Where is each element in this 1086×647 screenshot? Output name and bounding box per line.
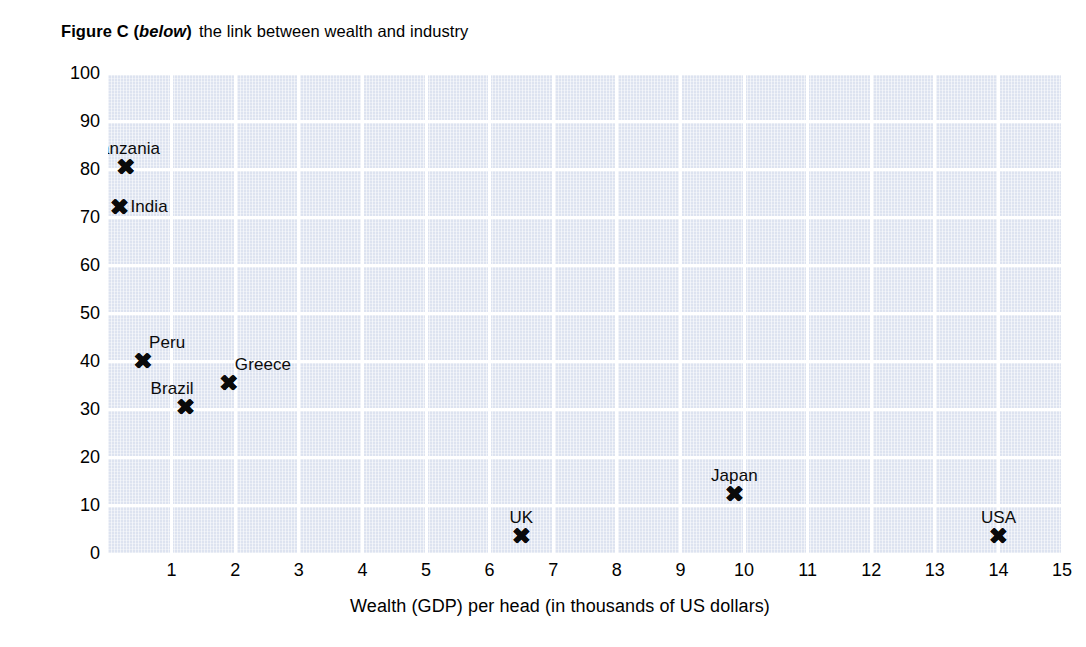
gridline-horizontal: [108, 264, 1062, 267]
gridline-horizontal: [108, 456, 1062, 459]
x-cross-icon: ✖: [512, 525, 531, 548]
y-axis-tick-label: 10: [10, 496, 100, 514]
title-emphasis: below: [139, 22, 186, 40]
page-title: Figure C (below)the link between wealth …: [61, 22, 468, 41]
x-axis-ticks: 123456789101112131415: [0, 561, 1086, 587]
data-point-label: Brazil: [151, 380, 194, 397]
y-axis-tick-label: 50: [10, 304, 100, 322]
x-axis-tick-label: 6: [470, 561, 510, 579]
gridline-horizontal: [108, 408, 1062, 411]
gridline-horizontal: [108, 168, 1062, 171]
title-prefix: Figure C (: [61, 22, 139, 40]
gridlines: [108, 73, 1062, 553]
x-axis-tick-label: 8: [597, 561, 637, 579]
y-axis-tick-label: 70: [10, 208, 100, 226]
x-cross-icon: ✖: [116, 155, 135, 178]
data-point-label: UK: [509, 509, 533, 526]
x-cross-icon: ✖: [725, 482, 744, 505]
data-point-label: Peru: [149, 334, 185, 351]
x-axis-tick-label: 10: [724, 561, 764, 579]
data-point-label: Tanzania: [108, 140, 160, 157]
y-axis-tick-label: 100: [10, 64, 100, 82]
data-point-label: India: [130, 198, 167, 215]
gridline-horizontal: [108, 73, 1062, 75]
scatter-plot-area: ✖Tanzania✖India✖Peru✖Greece✖Brazil✖Japan…: [108, 73, 1062, 553]
gridline-horizontal: [108, 504, 1062, 507]
x-axis-tick-label: 15: [1042, 561, 1082, 579]
x-cross-icon: ✖: [133, 350, 152, 373]
gridline-horizontal: [108, 120, 1062, 123]
x-cross-icon: ✖: [219, 371, 238, 394]
y-axis-tick-label: 0: [10, 544, 100, 562]
y-axis-tick-label: 60: [10, 256, 100, 274]
y-axis-tick-label: 80: [10, 160, 100, 178]
y-axis-tick-label: 40: [10, 352, 100, 370]
gridline-horizontal: [108, 216, 1062, 219]
y-axis-tick-label: 20: [10, 448, 100, 466]
data-point-label: Greece: [235, 356, 291, 373]
x-axis-tick-label: 4: [342, 561, 382, 579]
x-axis-tick-label: 3: [279, 561, 319, 579]
x-axis-tick-label: 7: [533, 561, 573, 579]
x-axis-tick-label: 11: [788, 561, 828, 579]
gridline-horizontal: [108, 312, 1062, 315]
x-cross-icon: ✖: [989, 525, 1008, 548]
x-axis-tick-label: 5: [406, 561, 446, 579]
title-rest: the link between wealth and industry: [199, 22, 469, 40]
x-axis-tick-label: 12: [851, 561, 891, 579]
x-cross-icon: ✖: [110, 196, 129, 219]
data-point-label: USA: [981, 509, 1016, 526]
x-axis-tick-label: 14: [978, 561, 1018, 579]
x-axis-tick-label: 2: [215, 561, 255, 579]
x-axis-title: Wealth (GDP) per head (in thousands of U…: [0, 597, 1086, 615]
y-axis-tick-label: 30: [10, 400, 100, 418]
x-axis-tick-label: 13: [915, 561, 955, 579]
y-axis-ticks: 0102030405060708090100: [0, 73, 100, 553]
x-axis-tick-label: 9: [660, 561, 700, 579]
y-axis-tick-label: 90: [10, 112, 100, 130]
data-point-label: Japan: [711, 467, 758, 484]
x-cross-icon: ✖: [176, 395, 195, 418]
x-axis-tick-label: 1: [152, 561, 192, 579]
title-suffix: ): [186, 22, 192, 40]
